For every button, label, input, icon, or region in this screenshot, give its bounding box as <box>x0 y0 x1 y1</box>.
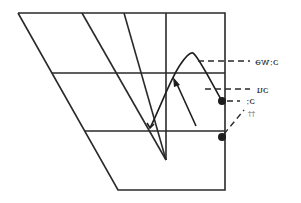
vowel-chart: ɔːwə ɔu ɔː †† <box>0 0 301 203</box>
trajectory-curve <box>150 53 222 128</box>
label-owa: ɔːwə <box>255 56 279 67</box>
vowel-point-upper <box>218 97 226 105</box>
inner-slant-line-2 <box>124 13 166 160</box>
arrow-shaft <box>176 82 196 126</box>
label-ou: ɔu <box>256 84 269 95</box>
vowel-point-lower <box>218 133 226 141</box>
label-dagger: †† <box>248 110 256 118</box>
arrow-head <box>173 77 180 87</box>
label-o-long: ɔː <box>246 95 255 106</box>
inner-slant-line-1 <box>82 13 166 160</box>
leader-dagger <box>224 110 244 134</box>
quadrilateral-outline <box>18 13 225 190</box>
